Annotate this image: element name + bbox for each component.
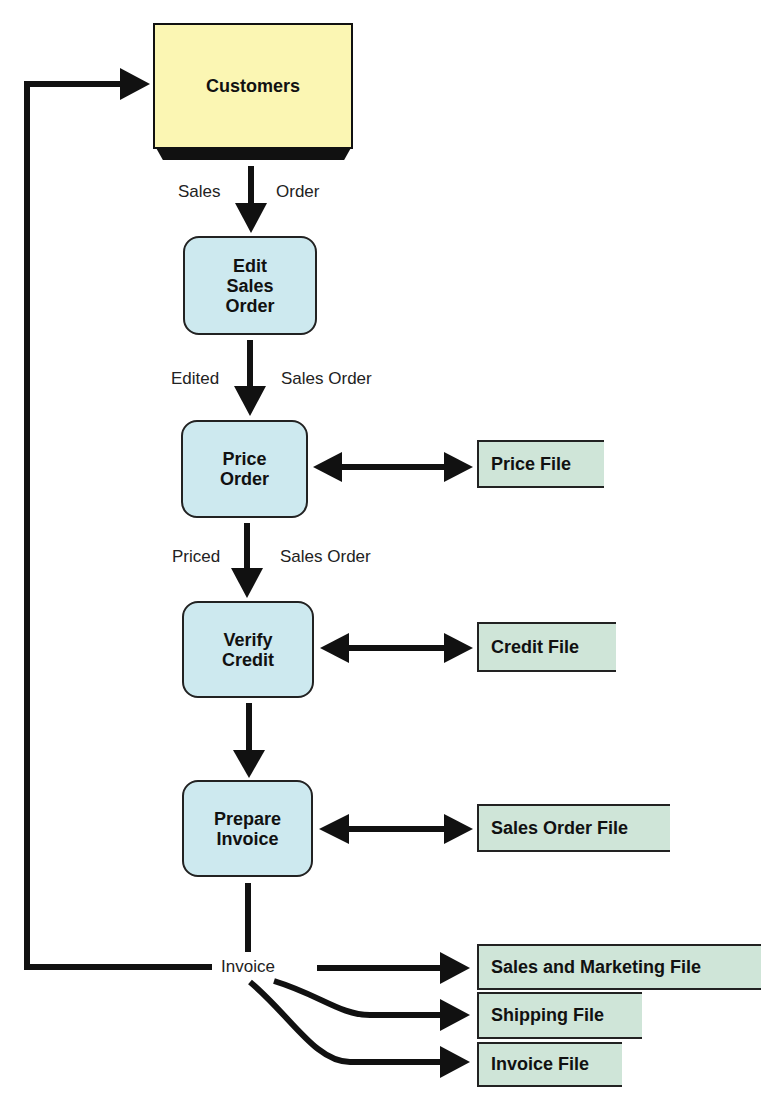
flow-label-priced: Priced xyxy=(172,547,220,567)
store-label: Invoice File xyxy=(491,1054,589,1075)
store-sales-order-file[interactable]: Sales Order File xyxy=(477,804,670,852)
flow-label-priced-sales-order: Sales Order xyxy=(280,547,371,567)
arrowhead-verify-credit xyxy=(231,568,263,598)
store-invoice-file[interactable]: Invoice File xyxy=(477,1042,622,1087)
store-price-file[interactable]: Price File xyxy=(477,440,604,488)
flow-label-order: Order xyxy=(276,182,319,202)
arrowhead-price-order xyxy=(234,386,266,416)
arrowhead-edit-sales-order xyxy=(235,203,267,233)
data-flow-diagram: Customers Sales Order Edited Sales Order… xyxy=(0,0,772,1094)
store-credit-file[interactable]: Credit File xyxy=(477,622,616,672)
flow-label-sales: Sales xyxy=(178,182,221,202)
process-verify-credit[interactable]: Verify Credit xyxy=(182,601,314,698)
store-label: Price File xyxy=(491,454,571,475)
process-label: Verify Credit xyxy=(222,630,274,670)
store-label: Shipping File xyxy=(491,1005,604,1026)
store-sales-and-marketing-file[interactable]: Sales and Marketing File xyxy=(477,944,761,990)
store-label: Credit File xyxy=(491,637,579,658)
flow-arrows xyxy=(0,0,772,1094)
flow-label-edited-sales-order: Sales Order xyxy=(281,369,372,389)
customers-label: Customers xyxy=(206,76,300,97)
arrowhead-prepare-invoice xyxy=(233,750,265,778)
process-prepare-invoice[interactable]: Prepare Invoice xyxy=(182,780,313,877)
flow-label-edited: Edited xyxy=(171,369,219,389)
arrowhead-customers xyxy=(120,68,150,100)
process-label: Prepare Invoice xyxy=(214,809,281,849)
process-edit-sales-order[interactable]: Edit Sales Order xyxy=(183,236,317,335)
customers-entity[interactable]: Customers xyxy=(153,23,353,149)
store-label: Sales and Marketing File xyxy=(491,957,701,978)
store-label: Sales Order File xyxy=(491,818,628,839)
flow-label-invoice: Invoice xyxy=(221,957,275,977)
process-label: Price Order xyxy=(220,449,269,489)
store-shipping-file[interactable]: Shipping File xyxy=(477,992,642,1039)
process-price-order[interactable]: Price Order xyxy=(181,420,308,518)
process-label: Edit Sales Order xyxy=(225,256,274,316)
